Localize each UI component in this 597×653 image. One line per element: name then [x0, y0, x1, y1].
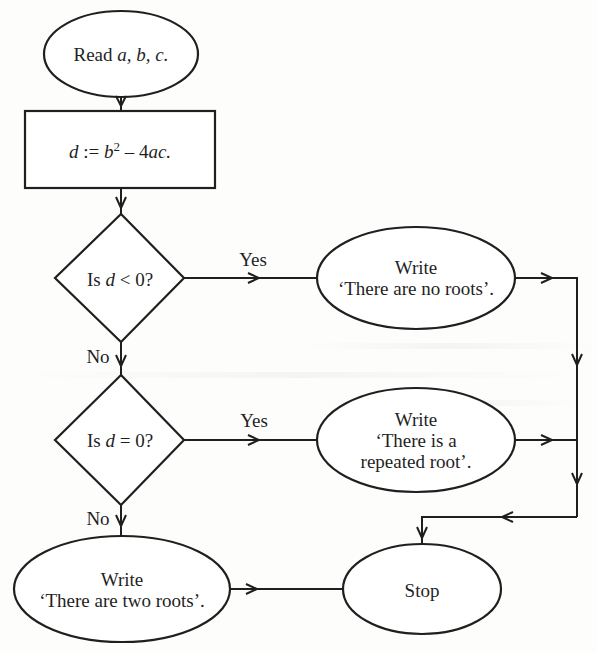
decision1-suffix: < 0?	[115, 269, 153, 290]
edge-label-d1-no: No	[86, 346, 109, 368]
edge-two-roots-to-stop	[230, 584, 343, 594]
edge-label-d2-no: No	[86, 508, 109, 530]
edge-decision2-yes	[184, 435, 317, 445]
decision2-suffix: = 0?	[115, 430, 153, 451]
decision1-var: d	[105, 269, 115, 290]
no-roots-line2: ‘There are no roots’.	[338, 278, 494, 299]
compute-b: b	[104, 141, 114, 162]
node-decision2-label: Is d = 0?	[87, 430, 153, 451]
edge-repeated-root-to-right-bus	[515, 435, 582, 484]
flowchart-canvas: Read a, b, c. d := b2 – 4ac. Is d < 0? W…	[0, 0, 597, 653]
repeated-root-line1: Write	[361, 409, 472, 430]
node-compute-label: d := b2 – 4ac.	[69, 141, 171, 162]
edge-decision1-no	[116, 342, 126, 375]
read-text: Read	[74, 44, 118, 65]
decision2-prefix: Is	[87, 430, 105, 451]
repeated-root-line2: ‘There is a	[361, 430, 472, 451]
compute-lhs: d	[69, 141, 79, 162]
node-stop-label: Stop	[405, 580, 440, 601]
flowchart-graphics	[0, 0, 597, 653]
node-repeated-root-label: Write ‘There is a repeated root’.	[361, 409, 472, 472]
node-read-label: Read a, b, c.	[74, 44, 169, 65]
compute-assign: :=	[78, 141, 104, 162]
edge-no-roots-to-right-bus	[515, 273, 582, 517]
repeated-root-line3: repeated root’.	[361, 451, 472, 472]
two-roots-line1: Write	[39, 569, 205, 590]
no-roots-line1: Write	[338, 257, 494, 278]
edge-decision2-no	[116, 505, 126, 536]
edge-right-bus-to-stop	[417, 512, 577, 544]
decision2-var: d	[105, 430, 115, 451]
compute-ac: ac.	[148, 141, 171, 162]
edge-label-d1-yes: Yes	[239, 249, 267, 271]
node-two-roots-label: Write ‘There are two roots’.	[39, 569, 205, 611]
node-no-roots-label: Write ‘There are no roots’.	[338, 257, 494, 299]
decision1-prefix: Is	[87, 269, 105, 290]
edge-label-d2-yes: Yes	[240, 410, 268, 432]
edge-read-to-compute	[116, 96, 126, 111]
edge-decision1-yes	[184, 273, 317, 283]
compute-rest: – 4	[120, 141, 149, 162]
read-vars: a, b, c.	[117, 44, 168, 65]
node-decision1-label: Is d < 0?	[87, 269, 153, 290]
two-roots-line2: ‘There are two roots’.	[39, 590, 205, 611]
edge-compute-to-decision1	[116, 188, 126, 214]
